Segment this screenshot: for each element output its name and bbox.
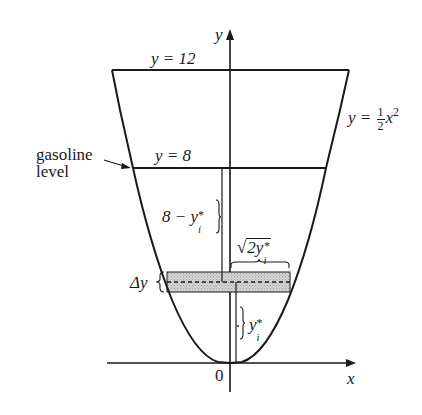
gasoline-pointer	[104, 160, 131, 169]
tank-diagram	[0, 0, 422, 415]
curve-fraction: 12	[377, 106, 385, 132]
x-axis-arrow-icon	[346, 359, 356, 367]
gasoline-level-value-label: y = 8	[155, 147, 191, 164]
y-axis-arrow-icon	[226, 29, 234, 40]
top-level-label: y = 12	[151, 50, 196, 67]
x-axis-label: x	[347, 370, 355, 387]
gasoline-label-line1: gasoline	[36, 146, 93, 163]
gasoline-label-line2: level	[36, 163, 93, 180]
slice-thickness-label: Δy	[130, 274, 148, 291]
curve-lhs: y =	[348, 108, 371, 127]
curve-var: x	[386, 108, 394, 127]
half-width-label: √2y*i	[237, 238, 271, 256]
half-width-brace-icon	[231, 259, 289, 268]
y-axis-label: y	[215, 26, 223, 43]
slice-strip	[167, 272, 290, 292]
pointer-arrow-icon	[121, 163, 131, 169]
height-label-brace-icon	[240, 307, 245, 339]
gasoline-level-annotation: gasoline level	[36, 146, 93, 180]
sqrt-icon: √	[237, 238, 246, 257]
y-axis	[226, 29, 234, 392]
distance-label: 8 − y*i	[162, 208, 206, 225]
curve-equation-label: y = 12x2	[348, 106, 399, 132]
curve-exponent: 2	[393, 105, 399, 119]
origin-label: 0	[215, 367, 224, 384]
distance-label-brace-icon	[216, 200, 221, 233]
slice-height-label: y*i	[249, 316, 265, 333]
